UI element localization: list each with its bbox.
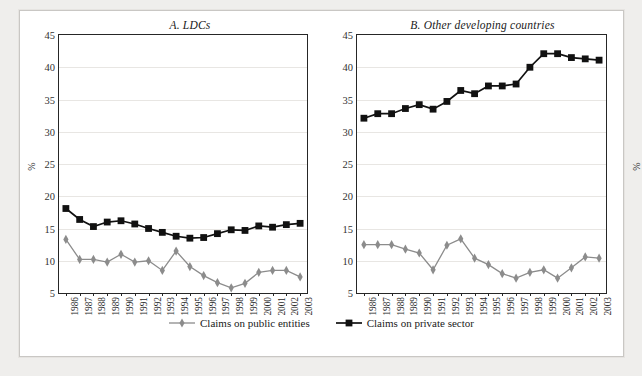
y-axis-tick-label: 30 bbox=[343, 126, 354, 137]
x-axis-tick-mark bbox=[530, 293, 531, 296]
x-axis-tick-mark bbox=[502, 293, 503, 296]
data-point-marker bbox=[242, 279, 247, 288]
x-axis-tick-label: 1996 bbox=[506, 297, 516, 316]
x-axis-tick-label: 1990 bbox=[423, 297, 433, 316]
data-point-marker bbox=[90, 223, 97, 230]
series-line bbox=[364, 54, 599, 119]
x-axis-tick-label: 2000 bbox=[562, 297, 572, 316]
x-axis-tick-mark bbox=[217, 293, 218, 296]
series-layer bbox=[59, 35, 307, 293]
x-axis-tick-mark bbox=[93, 293, 94, 296]
data-point-marker bbox=[485, 83, 492, 90]
data-point-marker bbox=[159, 229, 166, 236]
data-point-marker bbox=[62, 205, 69, 212]
data-point-marker bbox=[582, 55, 589, 62]
chart-panel-ldcs: A. LDCs % 510152025303540451986198719881… bbox=[20, 11, 330, 356]
legend-entry: Claims on private sector bbox=[336, 317, 474, 329]
legend-square-icon bbox=[336, 317, 362, 329]
x-axis-tick-mark bbox=[135, 293, 136, 296]
x-axis-tick-mark bbox=[378, 293, 379, 296]
data-point-marker bbox=[527, 64, 534, 71]
x-axis-tick-mark bbox=[231, 293, 232, 296]
y-axis-tick-label: 45 bbox=[343, 30, 354, 41]
data-point-marker bbox=[270, 266, 275, 275]
y-axis-tick-label: 20 bbox=[45, 191, 56, 202]
data-point-marker bbox=[361, 240, 366, 249]
x-axis-tick-label: 1995 bbox=[194, 297, 204, 316]
y-axis-tick-label: 45 bbox=[45, 30, 56, 41]
data-point-marker bbox=[541, 265, 546, 274]
x-axis-tick-label: 1993 bbox=[166, 297, 176, 316]
chart-legend: Claims on public entitiesClaims on priva… bbox=[20, 317, 623, 329]
x-axis-tick-mark bbox=[176, 293, 177, 296]
data-point-marker bbox=[513, 81, 520, 88]
data-point-marker bbox=[105, 257, 110, 266]
y-axis-tick-label: 25 bbox=[343, 159, 354, 170]
x-axis-tick-mark bbox=[190, 293, 191, 296]
y-axis-tick-label: 10 bbox=[45, 255, 56, 266]
data-point-marker bbox=[513, 274, 518, 283]
chart-panel-other-developing: B. Other developing countries % 51015202… bbox=[320, 11, 623, 356]
x-axis-tick-label: 1997 bbox=[221, 297, 231, 316]
panel-b-y-axis-unit: % bbox=[631, 162, 642, 170]
data-point-marker bbox=[104, 219, 111, 226]
data-point-marker bbox=[283, 221, 290, 228]
y-axis-tick-label: 5 bbox=[348, 288, 353, 299]
data-point-marker bbox=[596, 254, 601, 263]
x-axis-tick-label: 1986 bbox=[368, 297, 378, 316]
data-point-marker bbox=[568, 54, 575, 61]
x-axis-tick-label: 1991 bbox=[437, 297, 447, 316]
x-axis-tick-mark bbox=[273, 293, 274, 296]
x-axis-tick-mark bbox=[204, 293, 205, 296]
series-line bbox=[364, 239, 599, 278]
x-axis-tick-label: 1998 bbox=[534, 297, 544, 316]
data-point-marker bbox=[430, 106, 437, 113]
data-point-marker bbox=[187, 262, 192, 271]
data-point-marker bbox=[256, 268, 261, 277]
data-point-marker bbox=[540, 50, 547, 57]
x-axis-tick-mark bbox=[433, 293, 434, 296]
y-axis-tick-label: 35 bbox=[343, 94, 354, 105]
x-axis-tick-label: 2001 bbox=[575, 297, 585, 316]
data-point-marker bbox=[284, 266, 289, 275]
x-axis-tick-label: 1987 bbox=[84, 297, 94, 316]
data-point-marker bbox=[173, 233, 180, 240]
data-point-marker bbox=[403, 245, 408, 254]
data-point-marker bbox=[229, 283, 234, 292]
data-point-marker bbox=[255, 223, 262, 230]
data-point-marker bbox=[146, 256, 151, 265]
x-axis-tick-label: 1989 bbox=[111, 297, 121, 316]
y-axis-tick-label: 5 bbox=[50, 288, 55, 299]
figure-frame: A. LDCs % 510152025303540451986198719881… bbox=[19, 10, 624, 357]
data-point-marker bbox=[242, 227, 249, 234]
panel-b-title: B. Other developing countries bbox=[320, 19, 623, 31]
x-axis-tick-mark bbox=[488, 293, 489, 296]
data-point-marker bbox=[131, 221, 138, 228]
x-axis-tick-mark bbox=[364, 293, 365, 296]
x-axis-tick-label: 2002 bbox=[589, 297, 599, 316]
legend-label: Claims on private sector bbox=[367, 317, 474, 329]
data-point-marker bbox=[361, 115, 368, 122]
panel-a-y-axis-unit: % bbox=[26, 162, 37, 170]
data-point-marker bbox=[76, 216, 83, 223]
data-point-marker bbox=[186, 235, 193, 242]
x-axis-tick-mark bbox=[245, 293, 246, 296]
x-axis-tick-label: 2003 bbox=[603, 297, 613, 316]
x-axis-tick-mark bbox=[300, 293, 301, 296]
data-point-marker bbox=[374, 110, 381, 117]
y-axis-tick-label: 35 bbox=[45, 94, 56, 105]
x-axis-tick-label: 1990 bbox=[125, 297, 135, 316]
data-point-marker bbox=[132, 257, 137, 266]
y-axis-tick-label: 40 bbox=[45, 62, 56, 73]
x-axis-tick-mark bbox=[107, 293, 108, 296]
x-axis-tick-mark bbox=[544, 293, 545, 296]
y-axis-tick-label: 15 bbox=[45, 223, 56, 234]
x-axis-tick-label: 1999 bbox=[548, 297, 558, 316]
x-axis-tick-mark bbox=[599, 293, 600, 296]
data-point-marker bbox=[457, 87, 464, 94]
data-point-marker bbox=[471, 90, 478, 97]
data-point-marker bbox=[214, 230, 221, 237]
data-point-marker bbox=[569, 263, 574, 272]
legend-diamond-icon bbox=[169, 317, 195, 329]
x-axis-tick-mark bbox=[121, 293, 122, 296]
